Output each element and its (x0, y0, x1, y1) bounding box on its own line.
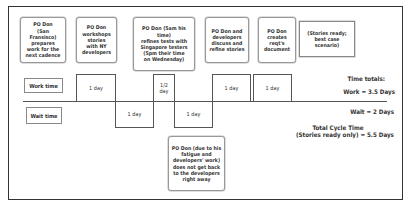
activity-delay-note: PO Don (due to his fatigue and developer… (168, 136, 225, 191)
cycle-time-total: (Stories ready only) = 5.5 Days (290, 131, 400, 138)
activity-stories-ready: (Stories ready; best case scenario) (299, 21, 355, 57)
wait-time-label: Wait time (26, 107, 62, 124)
work-total: Work = 3.5 Days (300, 88, 395, 95)
wait-total: Wait = 2 Days (300, 108, 394, 115)
activity-discuss-refine: PO Don and developers discuss and refine… (205, 17, 249, 63)
wait-segment-1: 1 day (115, 101, 154, 128)
activity-workshop-stories: PO Don workshops stories with NY develop… (76, 17, 117, 63)
work-segment-1: 1 day (76, 74, 116, 102)
activity-create-document: PO Don creates reqt's document (258, 17, 296, 63)
activity-refine-tests: PO Don (5am his time) refines tests with… (133, 17, 195, 71)
work-time-label: Work time (24, 78, 63, 93)
work-segment-3: 1 day (212, 74, 251, 102)
totals-heading: Time totals: (300, 75, 385, 82)
wait-segment-2: 1 day (174, 101, 213, 128)
cycle-time-title: Total Cycle Time (290, 124, 386, 131)
work-segment-4: 1 day (253, 74, 292, 102)
work-segment-2: 1/2 day (153, 74, 175, 102)
activity-prepare-work: PO Don (San Fransisco) prepares work for… (20, 17, 66, 63)
